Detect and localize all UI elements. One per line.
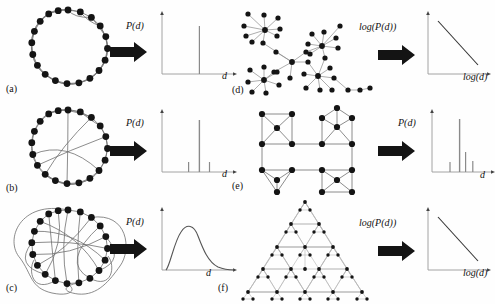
degree-distribution-multi-peak-plot: P(d) d: [420, 106, 495, 190]
plot-f-xlabel: log(d): [463, 267, 487, 278]
panel-d: (d) log(P(d)) log(d): [230, 0, 495, 102]
plot-b-xlabel: d: [222, 168, 227, 179]
network-topology-figure: (a) P(d) d: [0, 0, 495, 304]
arrow-right-icon: [378, 44, 416, 66]
degree-distribution-hierarchical-loglog-plot: log(P(d)) log(d): [416, 204, 495, 288]
panel-f: (f) log(P(d)) log(d): [230, 196, 495, 304]
arrow-right-icon: [378, 240, 416, 262]
plot-c-xlabel: d: [206, 267, 211, 278]
plot-b-ylabel: P(d): [126, 117, 144, 128]
plot-e-xlabel: d: [480, 169, 485, 180]
arrow-right-icon: [378, 140, 416, 162]
plot-a-ylabel: P(d): [126, 20, 144, 31]
degree-distribution-power-law-loglog-plot: log(P(d)) log(d): [416, 8, 495, 92]
panel-e: (e) P(d) d: [230, 100, 495, 200]
arrow-right-icon: [110, 238, 148, 260]
plot-d-xlabel: log(d): [463, 71, 487, 82]
panel-c: (c) P(d) d: [0, 196, 248, 304]
arrow-right-icon: [110, 140, 148, 162]
panel-e-label: (e): [232, 180, 243, 191]
panel-a: (a) P(d) d: [0, 0, 248, 102]
plot-e-ylabel: P(d): [398, 117, 416, 128]
panel-c-label: (c): [6, 282, 17, 293]
plot-f-ylabel: log(P(d)): [359, 217, 396, 228]
plot-a-xlabel: d: [222, 70, 227, 81]
plot-c-ylabel: P(d): [126, 216, 144, 227]
panel-f-label: (f): [218, 282, 228, 293]
panel-b-label: (b): [6, 182, 18, 193]
arrow-right-icon: [110, 41, 148, 63]
plot-d-ylabel: log(P(d)): [359, 21, 396, 32]
panel-d-label: (d): [232, 84, 244, 95]
panel-a-label: (a): [6, 83, 17, 94]
panel-b: (b) P(d) d: [0, 100, 248, 200]
hierarchical-fractal-network-graph: [230, 196, 385, 304]
modular-lattice-graph: [230, 100, 380, 200]
scale-free-network-graph: [230, 0, 380, 102]
